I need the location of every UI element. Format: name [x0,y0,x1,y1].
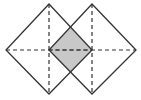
overlapping-squares-diagram [0,0,141,100]
diagram-container [0,0,141,100]
